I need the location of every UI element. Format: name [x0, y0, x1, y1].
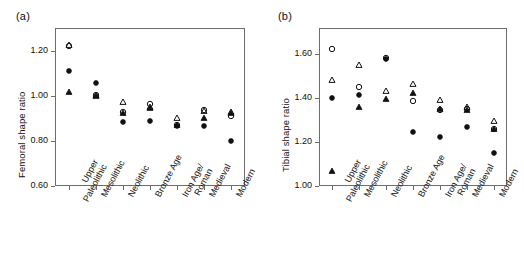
x-tick-mark: [123, 186, 124, 190]
y-tick-mark: [51, 141, 55, 142]
x-tick-mark: [386, 186, 387, 190]
x-tick-mark: [204, 186, 205, 190]
y-tick-label: 0.60: [15, 180, 48, 190]
x-tick-mark: [96, 186, 97, 190]
y-tick-mark: [315, 54, 319, 55]
figure-container: (a) Femoral shape ratio 0.600.801.001.20…: [0, 0, 524, 267]
y-tick-mark: [51, 186, 55, 187]
x-tick-mark: [467, 186, 468, 190]
y-tick-label: 1.60: [279, 48, 312, 58]
y-tick-mark: [51, 51, 55, 52]
x-tick-mark: [494, 186, 495, 190]
x-tick-mark: [359, 186, 360, 190]
x-tick-mark: [69, 186, 70, 190]
y-tick-label: 1.00: [15, 90, 48, 100]
panel-a-label: (a): [16, 10, 30, 22]
panel-b-label: (b): [278, 10, 292, 22]
y-tick-mark: [51, 96, 55, 97]
x-tick-mark: [150, 186, 151, 190]
y-tick-mark: [315, 186, 319, 187]
x-tick-mark: [231, 186, 232, 190]
y-tick-label: 1.20: [15, 45, 48, 55]
x-tick-mark: [332, 186, 333, 190]
y-tick-mark: [315, 142, 319, 143]
panel-b: (b) Tibial shape ratio 1.001.201.401.60U…: [262, 0, 524, 267]
plot-area-b: [319, 28, 507, 186]
panel-a: (a) Femoral shape ratio 0.600.801.001.20…: [0, 0, 262, 267]
y-tick-label: 1.20: [279, 136, 312, 146]
x-tick-mark: [177, 186, 178, 190]
y-axis-title-b: Tibial shape ratio: [280, 98, 291, 172]
x-tick-mark: [413, 186, 414, 190]
y-tick-label: 1.40: [279, 92, 312, 102]
x-tick-mark: [440, 186, 441, 190]
y-tick-label: 0.80: [15, 135, 48, 145]
y-tick-mark: [315, 98, 319, 99]
y-tick-label: 1.00: [279, 180, 312, 190]
